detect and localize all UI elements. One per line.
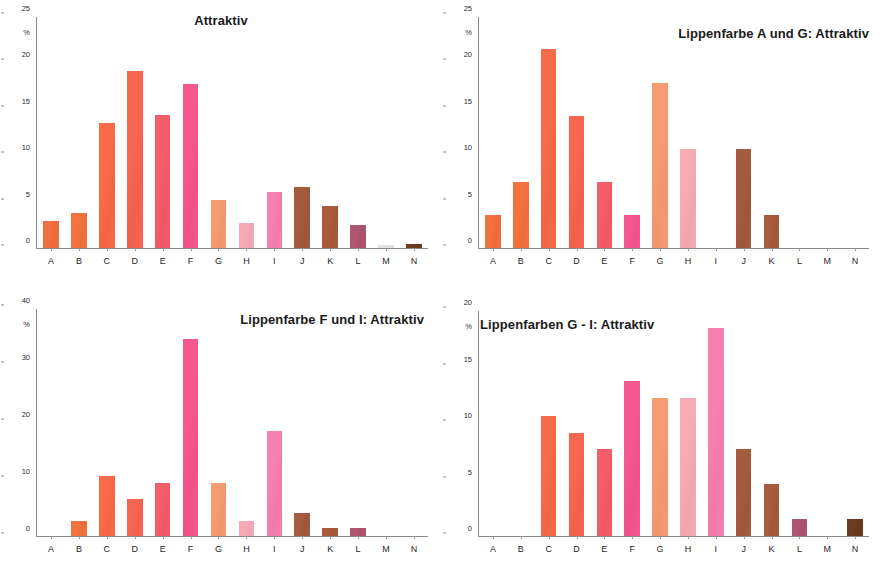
- bar-slot-a[interactable]: [479, 311, 507, 536]
- bar-slot-i[interactable]: [260, 309, 288, 536]
- bar-slot-a[interactable]: [479, 17, 507, 248]
- bar-slot-f[interactable]: [618, 311, 646, 536]
- bar-slot-f[interactable]: [177, 17, 205, 248]
- bar-d[interactable]: [127, 71, 143, 248]
- bar-slot-j[interactable]: [730, 17, 758, 248]
- bar-h[interactable]: [680, 398, 696, 536]
- bar-slot-g[interactable]: [205, 309, 233, 536]
- bar-slot-e[interactable]: [590, 17, 618, 248]
- bar-f[interactable]: [183, 84, 199, 248]
- bar-slot-h[interactable]: [674, 311, 702, 536]
- bar-slot-g[interactable]: [646, 17, 674, 248]
- bar-slot-a[interactable]: [37, 309, 65, 536]
- bar-g[interactable]: [211, 200, 227, 248]
- bar-slot-i[interactable]: [702, 311, 730, 536]
- bar-e[interactable]: [155, 483, 171, 536]
- bar-slot-d[interactable]: [121, 309, 149, 536]
- bar-slot-n[interactable]: [400, 17, 428, 248]
- bar-slot-l[interactable]: [785, 17, 813, 248]
- bar-h[interactable]: [680, 149, 696, 248]
- bar-slot-k[interactable]: [758, 311, 786, 536]
- bar-b[interactable]: [71, 521, 87, 536]
- bar-i[interactable]: [267, 192, 283, 248]
- bar-slot-d[interactable]: [563, 17, 591, 248]
- bar-l[interactable]: [350, 225, 366, 248]
- bar-d[interactable]: [127, 499, 143, 536]
- bar-slot-i[interactable]: [260, 17, 288, 248]
- bar-c[interactable]: [541, 49, 557, 248]
- bar-i[interactable]: [267, 431, 283, 536]
- bar-slot-l[interactable]: [344, 309, 372, 536]
- bar-b[interactable]: [71, 213, 87, 248]
- bar-slot-f[interactable]: [618, 17, 646, 248]
- bar-k[interactable]: [764, 484, 780, 536]
- bar-slot-h[interactable]: [232, 17, 260, 248]
- bar-k[interactable]: [322, 528, 338, 536]
- bar-k[interactable]: [764, 215, 780, 248]
- bar-slot-h[interactable]: [232, 309, 260, 536]
- bar-slot-m[interactable]: [372, 309, 400, 536]
- bar-slot-l[interactable]: [344, 17, 372, 248]
- bar-d[interactable]: [569, 433, 585, 537]
- bar-slot-c[interactable]: [93, 17, 121, 248]
- bar-e[interactable]: [155, 115, 171, 248]
- bar-slot-d[interactable]: [563, 311, 591, 536]
- bar-slot-b[interactable]: [65, 309, 93, 536]
- bar-slot-c[interactable]: [535, 17, 563, 248]
- bar-g[interactable]: [652, 398, 668, 536]
- bar-slot-c[interactable]: [93, 309, 121, 536]
- bar-j[interactable]: [736, 149, 752, 248]
- bar-slot-g[interactable]: [205, 17, 233, 248]
- bar-slot-n[interactable]: [841, 17, 869, 248]
- bar-f[interactable]: [624, 381, 640, 536]
- bar-slot-k[interactable]: [316, 309, 344, 536]
- bar-b[interactable]: [513, 182, 529, 248]
- bar-slot-m[interactable]: [813, 311, 841, 536]
- bar-g[interactable]: [652, 83, 668, 248]
- bar-slot-b[interactable]: [507, 311, 535, 536]
- bar-slot-j[interactable]: [288, 309, 316, 536]
- bar-slot-g[interactable]: [646, 311, 674, 536]
- bar-slot-j[interactable]: [288, 17, 316, 248]
- bar-slot-n[interactable]: [841, 311, 869, 536]
- bar-f[interactable]: [624, 215, 640, 248]
- bar-slot-c[interactable]: [535, 311, 563, 536]
- bar-slot-l[interactable]: [785, 311, 813, 536]
- bar-slot-b[interactable]: [507, 17, 535, 248]
- bar-slot-k[interactable]: [758, 17, 786, 248]
- bar-slot-m[interactable]: [813, 17, 841, 248]
- bar-slot-d[interactable]: [121, 17, 149, 248]
- bar-j[interactable]: [736, 449, 752, 536]
- bar-slot-e[interactable]: [590, 311, 618, 536]
- bar-n[interactable]: [847, 519, 863, 536]
- bar-l[interactable]: [792, 519, 808, 536]
- bar-g[interactable]: [211, 483, 227, 536]
- bar-slot-f[interactable]: [177, 309, 205, 536]
- bar-d[interactable]: [569, 116, 585, 248]
- bar-k[interactable]: [322, 206, 338, 249]
- bar-j[interactable]: [294, 513, 310, 536]
- bar-l[interactable]: [350, 528, 366, 536]
- bar-slot-j[interactable]: [730, 311, 758, 536]
- bar-j[interactable]: [294, 187, 310, 248]
- bar-slot-h[interactable]: [674, 17, 702, 248]
- bar-slot-e[interactable]: [149, 17, 177, 248]
- bar-slot-n[interactable]: [400, 309, 428, 536]
- bar-slot-i[interactable]: [702, 17, 730, 248]
- bar-c[interactable]: [99, 123, 115, 248]
- bar-slot-m[interactable]: [372, 17, 400, 248]
- bar-a[interactable]: [43, 221, 59, 248]
- bar-e[interactable]: [597, 182, 613, 248]
- bar-slot-k[interactable]: [316, 17, 344, 248]
- bar-slot-b[interactable]: [65, 17, 93, 248]
- bar-h[interactable]: [239, 223, 255, 248]
- bar-e[interactable]: [597, 449, 613, 536]
- bar-slot-e[interactable]: [149, 309, 177, 536]
- bar-i[interactable]: [708, 328, 724, 536]
- bar-h[interactable]: [239, 521, 255, 536]
- bar-f[interactable]: [183, 339, 199, 536]
- bar-a[interactable]: [485, 215, 501, 248]
- bar-c[interactable]: [99, 476, 115, 536]
- bar-slot-a[interactable]: [37, 17, 65, 248]
- bar-c[interactable]: [541, 416, 557, 536]
